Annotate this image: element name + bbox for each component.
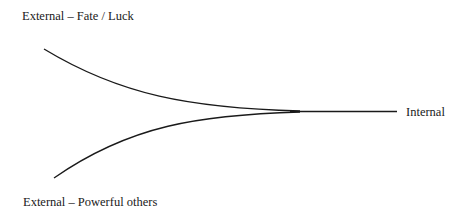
converging-curves xyxy=(0,0,464,217)
label-internal: Internal xyxy=(406,106,445,119)
label-external-powerful-others: External – Powerful others xyxy=(23,196,157,209)
powerful-others-curve xyxy=(54,112,300,178)
fate-luck-curve xyxy=(44,49,300,111)
